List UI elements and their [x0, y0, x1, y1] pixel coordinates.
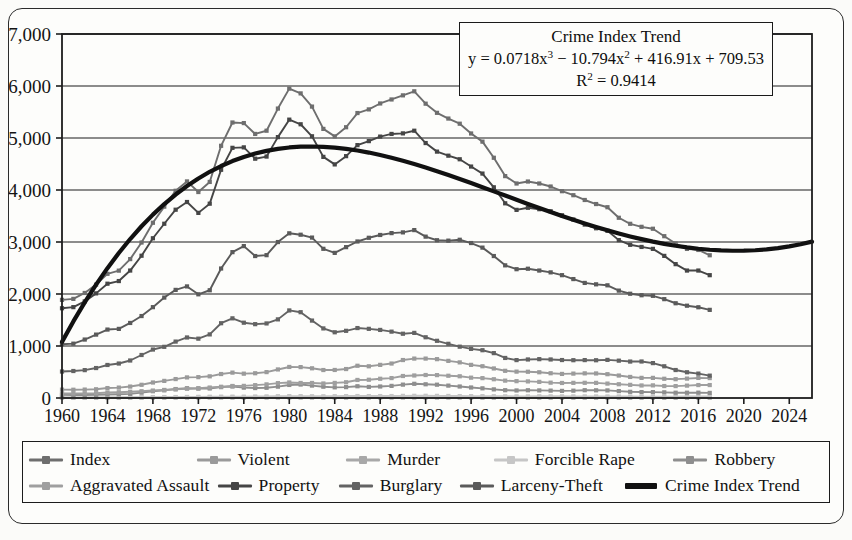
- data-point: [287, 380, 291, 384]
- legend-item-index[interactable]: Index: [29, 451, 197, 469]
- data-point: [571, 389, 575, 393]
- data-point: [537, 370, 541, 374]
- data-point: [639, 390, 643, 394]
- legend-item-property[interactable]: Property: [218, 477, 339, 495]
- data-point: [264, 154, 268, 158]
- data-point: [514, 267, 518, 271]
- data-point: [458, 122, 462, 126]
- data-point: [367, 236, 371, 240]
- data-point: [344, 367, 348, 371]
- data-point: [628, 383, 632, 387]
- data-point: [139, 353, 143, 357]
- data-point: [674, 377, 678, 381]
- data-point: [253, 322, 257, 326]
- legend-label: Index: [70, 451, 110, 469]
- legend-item-forcible-rape[interactable]: Forcible Rape: [494, 451, 674, 469]
- data-point: [355, 239, 359, 243]
- data-point: [185, 200, 189, 204]
- data-point: [628, 359, 632, 363]
- legend-swatch-icon: [494, 453, 528, 467]
- legend-label: Murder: [387, 451, 440, 469]
- data-point: [424, 382, 428, 386]
- data-point: [594, 388, 598, 392]
- data-point: [310, 318, 314, 322]
- data-point: [492, 351, 496, 355]
- legend-item-robbery[interactable]: Robbery: [673, 451, 823, 469]
- data-point: [514, 208, 518, 212]
- data-point: [537, 357, 541, 361]
- x-axis-tick-labels: 1960196419681972197619801984198819921996…: [44, 406, 807, 426]
- data-point: [696, 268, 700, 272]
- legend-marker: [42, 456, 50, 464]
- data-point: [639, 245, 643, 249]
- data-point: [685, 384, 689, 388]
- data-point: [617, 289, 621, 293]
- data-point: [71, 305, 75, 309]
- data-point: [117, 386, 121, 390]
- legend-item-murder[interactable]: Murder: [346, 451, 494, 469]
- data-point: [526, 267, 530, 271]
- data-point: [708, 391, 712, 395]
- data-point: [685, 268, 689, 272]
- data-point: [355, 143, 359, 147]
- legend-item-aggravated-assault[interactable]: Aggravated Assault: [29, 477, 218, 495]
- equation-tail: + 416.91x + 709.53: [630, 49, 764, 68]
- data-point: [105, 327, 109, 331]
- data-point: [71, 391, 75, 395]
- x-tick-label: 1988: [362, 406, 398, 426]
- data-point: [435, 238, 439, 242]
- legend-item-larceny-theft[interactable]: Larceny-Theft: [460, 477, 624, 495]
- data-point: [674, 384, 678, 388]
- legend-item-crime-index-trend[interactable]: Crime Index Trend: [624, 477, 823, 495]
- data-point: [162, 222, 166, 226]
- data-point: [571, 277, 575, 281]
- data-point: [94, 291, 98, 295]
- r2-prefix: R: [576, 71, 587, 90]
- data-point: [355, 364, 359, 368]
- data-point: [264, 321, 268, 325]
- data-point: [378, 384, 382, 388]
- legend-item-burglary[interactable]: Burglary: [339, 477, 460, 495]
- data-point: [299, 365, 303, 369]
- y-tick-label: 4,000: [8, 180, 51, 201]
- data-point: [594, 202, 598, 206]
- data-point: [480, 171, 484, 175]
- data-point: [253, 132, 257, 136]
- legend-item-violent[interactable]: Violent: [197, 451, 347, 469]
- data-point: [458, 345, 462, 349]
- data-point: [367, 378, 371, 382]
- data-point: [708, 253, 712, 257]
- x-tick-label: 1968: [135, 406, 171, 426]
- data-point: [83, 387, 87, 391]
- data-point: [389, 376, 393, 380]
- data-point: [583, 371, 587, 375]
- data-point: [219, 144, 223, 148]
- data-point: [446, 154, 450, 158]
- data-point: [708, 383, 712, 387]
- data-point: [208, 288, 212, 292]
- series-larceny-theft: [60, 228, 712, 346]
- equation-prefix: y = 0.0718x: [468, 49, 547, 68]
- legend-swatch-icon: [460, 479, 494, 493]
- data-point: [378, 377, 382, 381]
- data-point: [253, 383, 257, 387]
- data-point: [389, 132, 393, 136]
- data-point: [367, 327, 371, 331]
- data-point: [424, 141, 428, 145]
- data-point: [424, 335, 428, 339]
- data-point: [230, 316, 234, 320]
- data-point: [651, 383, 655, 387]
- data-point: [94, 366, 98, 370]
- data-point: [83, 337, 87, 341]
- data-point: [196, 292, 200, 296]
- data-point: [230, 120, 234, 124]
- data-point: [571, 358, 575, 362]
- data-point: [151, 380, 155, 384]
- annotation-r-squared: R2 = 0.9414: [576, 70, 656, 92]
- x-tick-label: 1980: [271, 406, 307, 426]
- data-point: [174, 377, 178, 381]
- data-point: [139, 240, 143, 244]
- data-point: [696, 376, 700, 380]
- data-point: [242, 384, 246, 388]
- data-point: [480, 386, 484, 390]
